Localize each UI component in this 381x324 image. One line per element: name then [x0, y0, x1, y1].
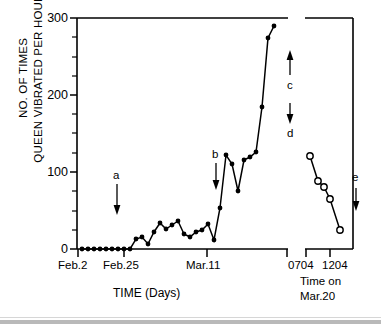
annotation-arrow-c — [287, 50, 294, 75]
x-tick-label-mar11: Mar.11 — [186, 259, 220, 271]
annotation-label-e: e — [352, 171, 358, 183]
x-axis-title-right-line2: Mar.20 — [300, 290, 335, 302]
y-tick-label-200: 200 — [36, 88, 68, 102]
x-tick-label-feb25: Feb.25 — [103, 259, 139, 271]
annotation-label-c: c — [287, 79, 293, 91]
y-tick-label-100: 100 — [36, 165, 68, 179]
x-tick-label-feb2: Feb.2 — [58, 259, 87, 271]
scan-edge-line-thin — [0, 317, 381, 318]
annotation-arrow-b — [213, 163, 220, 190]
annotation-arrow-d — [287, 103, 294, 124]
main-panel-x-ticks — [78, 249, 287, 257]
x-tick-label-1204: 1204 — [322, 259, 348, 271]
annotation-arrow-a — [114, 184, 121, 215]
annotation-label-b: b — [212, 148, 218, 160]
x-tick-label-0704: 0704 — [288, 259, 314, 271]
figure-container: NO. OF TIMES QUEEN VIBRATED PER HOUR 0 1… — [0, 0, 381, 324]
x-axis-title-right-line1: Time on — [300, 275, 341, 287]
scan-edge-line-thick — [0, 320, 381, 324]
right-panel-x-ticks — [306, 249, 330, 257]
main-series-points — [80, 24, 277, 252]
x-axis-title-main: TIME (Days) — [113, 286, 180, 300]
annotation-label-d: d — [287, 127, 293, 139]
y-tick-label-0: 0 — [36, 242, 68, 256]
annotation-label-a: a — [113, 169, 119, 181]
right-series-line — [310, 156, 340, 230]
y-tick-label-300: 300 — [36, 11, 68, 25]
main-series-line — [82, 26, 274, 249]
